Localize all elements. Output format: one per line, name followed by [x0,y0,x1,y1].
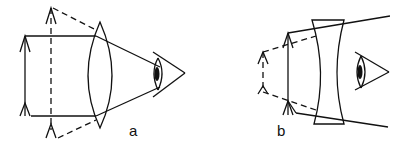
dashed-ray-bottom-a [58,120,96,138]
virtual-image-arrow-b [258,52,268,94]
eye-icon-b [355,52,389,90]
ray-top-b [288,16,390,33]
panel-b [258,16,390,127]
virtual-image-arrow-a [46,8,56,138]
panel-label-b: b [277,122,285,139]
optics-diagram: a b [0,0,403,148]
panel-label-a: a [129,122,137,139]
eye-icon-a [153,52,185,97]
panel-a [20,8,185,138]
ray-top-to-eye-a [96,36,160,67]
object-arrow-a [20,36,30,116]
concave-lens [312,20,344,124]
dashed-ray-top-a [53,8,96,30]
ray-bottom-to-eye-a [96,87,160,116]
dashed-ray-bottom-b [263,92,316,110]
